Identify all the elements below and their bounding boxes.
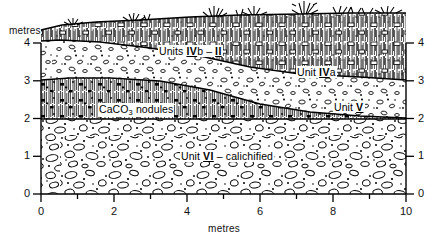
x-axis-title: metres (0, 223, 448, 234)
y-tick-label-right-3: 3 (418, 74, 434, 86)
x-tick-label-8: 8 (326, 205, 340, 217)
label-unit-6-suffix: – calichified (214, 150, 273, 162)
label-unit-4a-prefix: Unit (297, 66, 319, 78)
label-units-4b-2-roman-b: II (215, 45, 222, 57)
label-unit-4a-suffix: a (330, 66, 336, 78)
label-unit-6-prefix: Unit (181, 150, 203, 162)
label-unit-5: Unit V (333, 101, 365, 113)
label-unit-5-prefix: Unit (334, 101, 356, 113)
y-tick-label-right-2: 2 (418, 112, 434, 124)
bed-unit-6 (41, 119, 425, 211)
label-caco3-pre: CaCO (99, 103, 129, 115)
y-tick-label-right-4: 4 (418, 36, 434, 48)
label-unit-5-roman: V (356, 101, 363, 113)
x-ticks (41, 194, 406, 202)
y-tick-label-left-4: 4 (14, 36, 30, 48)
y-tick-label-left-2: 2 (14, 112, 30, 124)
label-units-4b-2-prefix: Units (159, 45, 186, 57)
x-tick-label-10: 10 (396, 205, 416, 217)
x-tick-label-4: 4 (180, 205, 194, 217)
label-units-4b-2-roman-a: IV (186, 45, 197, 57)
label-unit-4a-roman: IV (319, 66, 330, 78)
y-ticks-right (406, 43, 414, 194)
label-unit-6: Unit VI – calichified (180, 150, 274, 162)
figure-root: metres metres 4 3 2 1 0 4 3 2 1 0 0 2 4 … (0, 0, 448, 240)
section-drawing (0, 0, 448, 240)
x-tick-label-2: 2 (107, 205, 121, 217)
label-caco3-nodules: CaCO3 nodules (98, 103, 174, 117)
label-units-4b-2: Units IVb – II (158, 45, 223, 57)
label-units-4b-2-mid: b – (197, 45, 215, 57)
y-axis-title: metres (9, 25, 41, 36)
x-tick-label-0: 0 (34, 205, 48, 217)
y-tick-label-right-0: 0 (418, 187, 434, 199)
label-unit-6-roman: VI (203, 150, 214, 162)
x-tick-label-6: 6 (253, 205, 267, 217)
y-tick-label-left-1: 1 (14, 149, 30, 161)
y-tick-label-left-3: 3 (14, 74, 30, 86)
label-unit-4a: Unit IVa (296, 66, 337, 78)
y-tick-label-right-1: 1 (418, 149, 434, 161)
label-caco3-post: nodules (133, 103, 174, 115)
y-tick-label-left-0: 0 (14, 187, 30, 199)
y-ticks-left (33, 43, 41, 194)
